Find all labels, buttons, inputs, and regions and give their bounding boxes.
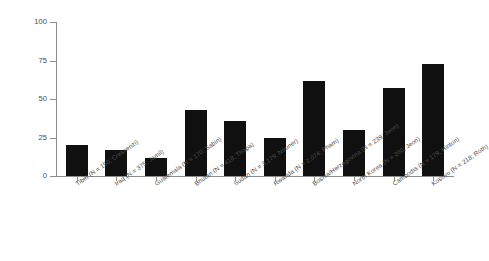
bar bbox=[185, 110, 207, 176]
y-tick-100: 100 bbox=[50, 22, 57, 23]
y-tick-75: 75 bbox=[50, 61, 57, 62]
y-tick-50: 50 bbox=[50, 99, 57, 100]
y-tick-label-75: 75 bbox=[17, 56, 47, 65]
y-tick-0: 0 bbox=[50, 176, 57, 177]
bar bbox=[66, 145, 88, 176]
y-tick-label-25: 25 bbox=[17, 133, 47, 142]
y-tick-25: 25 bbox=[50, 138, 57, 139]
y-tick-label-0: 0 bbox=[17, 171, 47, 180]
y-tick-label-100: 100 bbox=[17, 17, 47, 26]
y-tick-label-50: 50 bbox=[17, 94, 47, 103]
